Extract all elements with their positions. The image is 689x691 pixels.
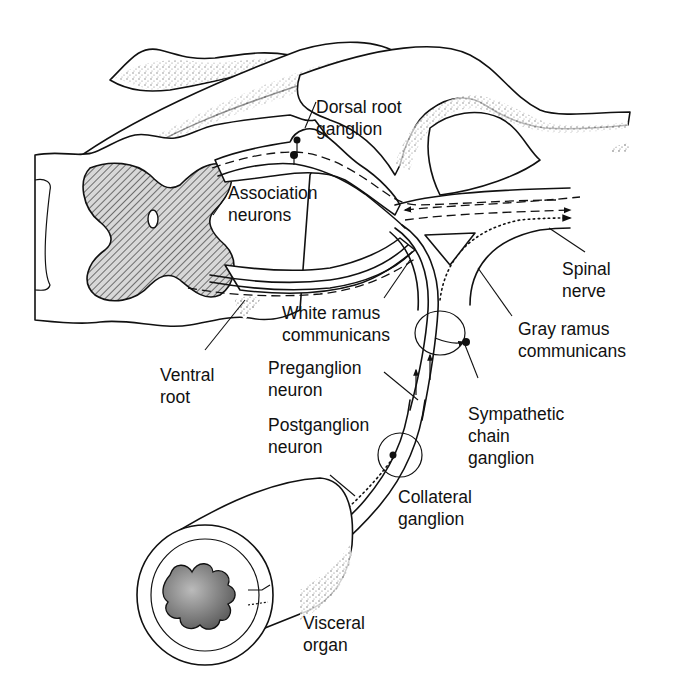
label-line: Ventral: [160, 364, 214, 386]
label-line: neurons: [228, 204, 318, 226]
label-line: ganglion: [316, 118, 402, 140]
label-line: ganglion: [468, 447, 564, 469]
label-line: Collateral: [398, 486, 472, 508]
label-line: White ramus: [282, 302, 390, 324]
label-line: Gray ramus: [518, 318, 626, 340]
label-association-neurons: Association neurons: [228, 182, 318, 226]
label-line: chain: [468, 425, 564, 447]
label-line: root: [160, 386, 214, 408]
label-visceral-organ: Visceral organ: [303, 612, 365, 656]
label-line: communicans: [518, 340, 626, 362]
label-line: Visceral: [303, 612, 365, 634]
label-line: communicans: [282, 324, 390, 346]
label-line: Spinal: [562, 258, 611, 280]
label-line: neuron: [268, 436, 369, 458]
label-line: neuron: [268, 379, 361, 401]
label-line: organ: [303, 634, 365, 656]
label-line: Sympathetic: [468, 403, 564, 425]
label-line: nerve: [562, 280, 611, 302]
central-canal: [148, 210, 158, 228]
label-postganglion-neuron: Postganglion neuron: [268, 414, 369, 458]
label-line: Postganglion: [268, 414, 369, 436]
label-preganglion-neuron: Preganglion neuron: [268, 357, 361, 401]
label-line: ganglion: [398, 508, 472, 530]
label-line: Preganglion: [268, 357, 361, 379]
label-sympathetic-chain-ganglion: Sympathetic chain ganglion: [468, 403, 564, 469]
label-white-ramus-communicans: White ramus communicans: [282, 302, 390, 346]
label-collateral-ganglion: Collateral ganglion: [398, 486, 472, 530]
label-line: Dorsal root: [316, 96, 402, 118]
sympathetic-chain-ganglion: [415, 311, 465, 355]
label-spinal-nerve: Spinal nerve: [562, 258, 611, 302]
label-line: Association: [228, 182, 318, 204]
label-dorsal-root-ganglion: Dorsal root ganglion: [316, 96, 402, 140]
label-gray-ramus-communicans: Gray ramus communicans: [518, 318, 626, 362]
label-ventral-root: Ventral root: [160, 364, 214, 408]
